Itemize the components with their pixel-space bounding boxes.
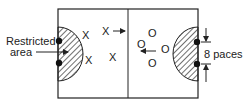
restricted-label-line2: area xyxy=(10,46,32,58)
o-player: O xyxy=(148,57,157,69)
left-restricted-area xyxy=(58,27,83,81)
o-player: O xyxy=(148,27,157,39)
left-goal-post-bottom xyxy=(56,60,62,66)
left-goal-post-top xyxy=(56,38,62,44)
o-player: O xyxy=(137,38,146,50)
paces-label: 8 paces xyxy=(204,48,243,60)
right-goal-post-bottom xyxy=(194,61,200,67)
x-player: X xyxy=(102,25,109,37)
x-player: X xyxy=(85,54,92,66)
right-goal-post-top xyxy=(194,39,200,45)
right-restricted-area xyxy=(173,27,198,81)
x-player: X xyxy=(109,51,116,63)
x-player: X xyxy=(82,29,89,41)
o-player: O xyxy=(161,43,170,55)
